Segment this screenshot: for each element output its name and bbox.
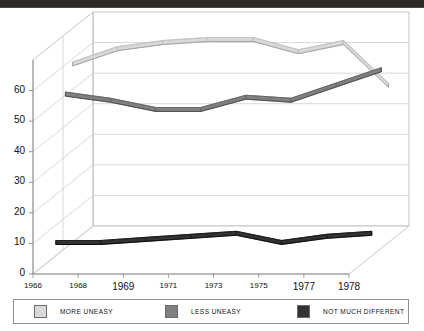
chart-legend: MORE UNEASY LESS UNEASY NOT MUCH DIFFERE… — [13, 299, 409, 324]
y-axis-label: 50 — [0, 114, 25, 125]
y-axis-label: 0 — [0, 267, 25, 278]
legend-swatch-less-uneasy — [165, 305, 178, 318]
series-ribbon-segment — [156, 107, 201, 111]
y-axis-label: 40 — [0, 145, 25, 156]
y-axis-label: 60 — [0, 84, 25, 95]
legend-label-less-uneasy: LESS UNEASY — [191, 308, 241, 315]
legend-swatch-more-uneasy — [34, 305, 47, 318]
x-axis-label: 1978 — [323, 281, 375, 292]
legend-label-not-much-different: NOT MUCH DIFFERENT — [323, 308, 404, 315]
chart-window: 0102030405060196619681969197119731975197… — [0, 0, 424, 331]
y-axis-label: 20 — [0, 206, 25, 217]
legend-item-more-uneasy: MORE UNEASY — [34, 300, 113, 323]
chart-plot-area: 0102030405060196619681969197119731975197… — [0, 7, 424, 293]
series-ribbon-segment — [56, 240, 101, 244]
line-chart-svg — [0, 7, 424, 293]
legend-item-less-uneasy: LESS UNEASY — [165, 300, 241, 323]
y-axis-label: 30 — [0, 175, 25, 186]
legend-swatch-not-much-different — [297, 305, 310, 318]
legend-item-not-much-different: NOT MUCH DIFFERENT — [297, 300, 404, 323]
series-ribbon-segment — [208, 37, 253, 41]
legend-label-more-uneasy: MORE UNEASY — [60, 308, 113, 315]
y-axis-label: 10 — [0, 236, 25, 247]
